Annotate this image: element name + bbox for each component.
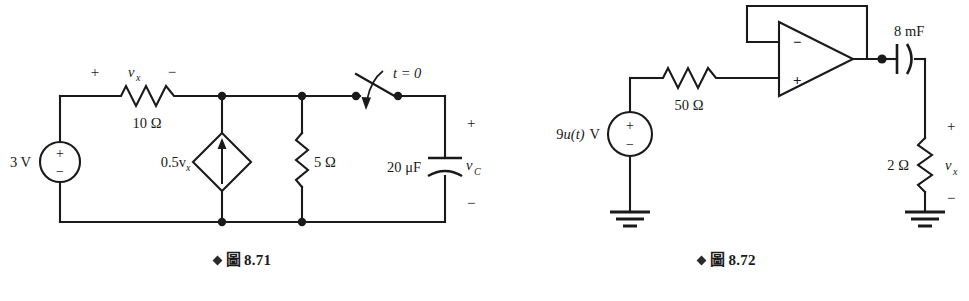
- ground-symbol-load: [905, 212, 945, 226]
- resistor-10ohm-label: 10 Ω: [133, 115, 162, 131]
- figure-page: + v x − 10 Ω 3 V + − 0.5v x 5 Ω t = 0 20…: [0, 0, 969, 301]
- source-9ut-function: u(t): [564, 126, 585, 143]
- opamp-triangle: [779, 22, 853, 96]
- opamp-noninverting-sign: +: [793, 72, 802, 88]
- capacitor-20uf-label: 20 μF: [387, 159, 421, 175]
- capacitor-minus-label: −: [467, 195, 475, 211]
- figure-8-72: 9u(t)V + − 50 Ω − + 8 mF 2 Ω + v x − 圖8.…: [485, 0, 969, 301]
- capacitor-8mf-label: 8 mF: [894, 23, 924, 39]
- capacitor-20uf-symbol: [428, 158, 462, 176]
- dependent-source-subscript: x: [185, 162, 191, 173]
- figure-caption-8-72: 圖8.72: [485, 248, 969, 269]
- junction-dot-bottom-a: [218, 218, 226, 226]
- circuit-diagram-8-71: + v x − 10 Ω 3 V + − 0.5v x 5 Ω t = 0 20…: [0, 0, 485, 250]
- load-minus-label: −: [947, 190, 955, 206]
- junction-dot-top-a: [218, 92, 226, 100]
- ground-symbol-source: [610, 212, 650, 226]
- wire-opamp-feedback: [747, 6, 867, 59]
- caption-diamond-icon: [212, 256, 222, 266]
- switch-actuation-arrow: [362, 71, 384, 110]
- caption-cjk-label: 圖: [710, 251, 725, 269]
- source-3v-label: 3 V: [10, 154, 32, 170]
- capacitor-voltage-label: v: [466, 157, 473, 173]
- capacitor-plus-label: +: [467, 115, 475, 131]
- source-3v-plus: +: [56, 146, 64, 161]
- junction-dot-top-b: [298, 92, 306, 100]
- junction-dot-opamp-output: [877, 54, 886, 63]
- junction-dots: [218, 92, 402, 226]
- switch-terminal-right: [394, 92, 402, 100]
- resistor-5ohm-label: 5 Ω: [314, 154, 336, 170]
- capacitor-voltage-subscript: C: [474, 166, 481, 177]
- caption-number: 8.71: [244, 252, 271, 268]
- source-3v-minus: −: [56, 164, 64, 179]
- source-9ut-label: 9u(t)V: [556, 126, 600, 143]
- caption-cjk-label: 圖: [226, 251, 241, 269]
- vx-label: v: [128, 64, 135, 80]
- resistor-5ohm-symbol: [296, 133, 308, 187]
- source-9ut-plus: +: [626, 118, 634, 133]
- source-9ut-minus: −: [626, 137, 634, 152]
- dependent-source-arrow: [218, 138, 227, 184]
- resistor-2ohm-symbol: [918, 138, 932, 192]
- load-plus-label: +: [947, 118, 955, 134]
- figure-caption-8-71: 圖8.71: [0, 248, 485, 269]
- circuit-diagram-8-72: 9u(t)V + − 50 Ω − + 8 mF 2 Ω + v x −: [485, 0, 969, 250]
- junction-dot-bottom-b: [298, 218, 306, 226]
- source-9ut-number: 9: [556, 126, 563, 142]
- resistor-50ohm-symbol: [657, 68, 722, 88]
- resistor-10ohm-symbol: [115, 86, 180, 106]
- resistor-2ohm-label: 2 Ω: [887, 157, 909, 173]
- load-voltage-subscript: x: [952, 166, 958, 177]
- resistor-50ohm-label: 50 Ω: [675, 97, 704, 113]
- switch-terminal-left: [352, 92, 360, 100]
- caption-number: 8.72: [728, 252, 755, 268]
- figure-8-71: + v x − 10 Ω 3 V + − 0.5v x 5 Ω t = 0 20…: [0, 0, 485, 301]
- caption-diamond-icon: [697, 256, 707, 266]
- vx-plus-label: +: [91, 64, 99, 80]
- switch-t0-label: t = 0: [393, 65, 422, 81]
- vx-minus-label: −: [168, 64, 176, 80]
- load-voltage-label: v: [945, 157, 952, 173]
- capacitor-8mf-symbol: [897, 44, 912, 74]
- source-9ut-unit: V: [590, 126, 601, 142]
- opamp-inverting-sign: −: [793, 34, 802, 50]
- vx-subscript: x: [135, 72, 141, 83]
- dependent-source-label: 0.5v: [161, 154, 187, 170]
